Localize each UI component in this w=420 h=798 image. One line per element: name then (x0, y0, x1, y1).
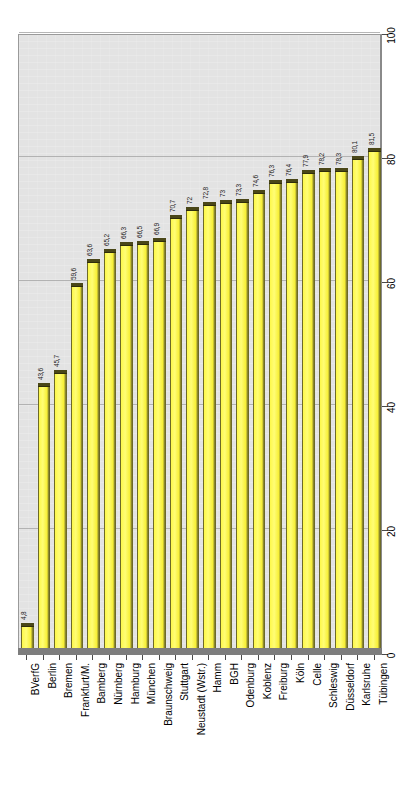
x-tick (43, 655, 44, 660)
bar-cap (319, 168, 332, 172)
bar-cap (220, 200, 233, 204)
bar-cap (54, 370, 67, 374)
y-tick-label: 0 (386, 653, 397, 659)
x-tick-label: Schleswig (328, 663, 339, 708)
bar-slot: 73 (218, 35, 235, 653)
bar[interactable] (286, 179, 299, 653)
bar-slot: 45,7 (52, 35, 69, 653)
bar[interactable] (368, 148, 381, 653)
bar[interactable] (170, 215, 183, 653)
bar[interactable] (186, 207, 199, 653)
bar[interactable] (236, 199, 249, 653)
x-tick (142, 655, 143, 660)
x-tick-label: Koblenz (262, 663, 273, 699)
bar[interactable] (335, 168, 348, 653)
bar-value-label: 72 (186, 197, 193, 204)
bar-slot: 4,8 (19, 35, 36, 653)
bar-slot: 65,2 (102, 35, 119, 653)
bar-slot: 66,9 (151, 35, 168, 653)
bar[interactable] (203, 202, 216, 653)
y-tick-label: 100 (386, 27, 397, 44)
bar-value-label: 73,3 (235, 184, 242, 196)
x-tick (324, 655, 325, 660)
x-tick-label: Frankfurt/M. (80, 663, 91, 717)
x-tick-label: Stuttgart (179, 663, 190, 701)
x-tick-label: Neustadt (Wstr.) (196, 663, 207, 735)
bar[interactable] (302, 170, 315, 653)
x-tick-label: Braunschweig (163, 663, 174, 726)
x-tick (241, 655, 242, 660)
x-tick (274, 655, 275, 660)
x-tick (341, 655, 342, 660)
y-tick-label: 60 (386, 278, 397, 289)
x-tick-label: Bremen (63, 663, 74, 698)
bar-value-label: 73 (219, 191, 226, 198)
bar[interactable] (71, 283, 84, 653)
bar-slot: 80,1 (350, 35, 367, 653)
bar-slot: 66,5 (135, 35, 152, 653)
bar-slot: 78,3 (333, 35, 350, 653)
x-tick-label: Nürnberg (113, 663, 124, 705)
bar-slot: 77,9 (300, 35, 317, 653)
bar-cap (286, 179, 299, 183)
x-tick-label: Hamburg (130, 663, 141, 704)
x-tick (76, 655, 77, 660)
bar[interactable] (137, 241, 150, 653)
bar[interactable] (220, 200, 233, 653)
x-axis-category-labels: BVerfGBerlinBremenFrankfurt/M.BambergNür… (18, 655, 382, 795)
x-tick (26, 655, 27, 660)
x-tick (308, 655, 309, 660)
bar-cap (352, 156, 365, 160)
bar[interactable] (38, 383, 51, 653)
bar[interactable] (253, 190, 266, 653)
bar[interactable] (352, 156, 365, 653)
gridline-100 (19, 32, 380, 33)
x-tick (357, 655, 358, 660)
x-tick-label: Bamberg (96, 663, 107, 704)
x-tick-label: Karlsruhe (361, 663, 372, 706)
x-tick-label: Tübingen (378, 663, 389, 705)
bar-cap (87, 259, 100, 263)
y-tick-label: 20 (386, 526, 397, 537)
bar-cap (170, 215, 183, 219)
bar-slot: 81,5 (366, 35, 383, 653)
bar[interactable] (269, 180, 282, 653)
bar-slot: 59,6 (69, 35, 86, 653)
bar-value-label: 77,9 (302, 155, 309, 167)
bar-cap (21, 623, 34, 627)
bar-value-label: 70,7 (169, 200, 176, 212)
x-tick (159, 655, 160, 660)
bars-layer: 4,843,645,759,663,665,266,366,566,970,77… (19, 35, 380, 653)
bar-value-label: 76,3 (268, 165, 275, 177)
bar-cap (302, 170, 315, 174)
bar-value-label: 66,3 (120, 227, 127, 239)
x-tick (109, 655, 110, 660)
x-tick-label: Odenburg (245, 663, 256, 707)
y-tick-label: 80 (386, 154, 397, 165)
bar-cap (38, 383, 51, 387)
bar-slot: 78,2 (317, 35, 334, 653)
bar-cap (203, 202, 216, 206)
bar-slot: 66,3 (118, 35, 135, 653)
x-tick (291, 655, 292, 660)
bar[interactable] (153, 238, 166, 653)
bar[interactable] (87, 259, 100, 653)
bar[interactable] (319, 168, 332, 653)
bar-cap (104, 249, 117, 253)
bar-value-label: 66,5 (136, 226, 143, 238)
bar-value-label: 78,3 (335, 153, 342, 165)
bar[interactable] (120, 242, 133, 653)
x-tick (258, 655, 259, 660)
axis-floor (18, 648, 382, 655)
bar-chart: 4,843,645,759,663,665,266,366,566,970,77… (0, 0, 420, 798)
bar-cap (368, 148, 381, 152)
bar[interactable] (54, 370, 67, 653)
x-tick-label: Hamm (212, 663, 223, 692)
x-tick (192, 655, 193, 660)
y-axis: 020406080100 (382, 34, 420, 655)
x-tick (59, 655, 60, 660)
bar-slot: 76,4 (284, 35, 301, 653)
bar[interactable] (104, 249, 117, 653)
bar-cap (253, 190, 266, 194)
x-tick (208, 655, 209, 660)
